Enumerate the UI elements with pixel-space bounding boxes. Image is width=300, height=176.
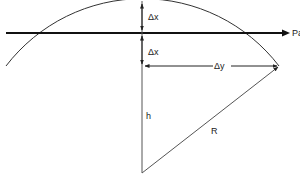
radius-label: R bbox=[211, 126, 218, 136]
circle-geometry-diagram: Path Δx Δx Δy R h bbox=[0, 0, 300, 176]
dx-top-label: Δx bbox=[148, 12, 159, 22]
h-label: h bbox=[146, 111, 151, 121]
path-arrowhead-icon bbox=[282, 30, 290, 37]
dy-label: Δy bbox=[214, 61, 225, 71]
radius-line bbox=[142, 67, 278, 173]
path-label: Path bbox=[292, 28, 300, 38]
dx-bottom-label: Δx bbox=[148, 47, 159, 57]
